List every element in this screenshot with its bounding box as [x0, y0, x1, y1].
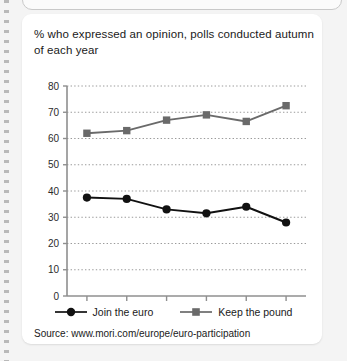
data-point-marker	[123, 195, 131, 203]
y-axis-tick-label: 50	[48, 159, 60, 170]
legend-item-join-the-euro: Join the euro	[54, 306, 154, 318]
clipped-box-above-figure	[22, 0, 342, 10]
data-point-marker	[203, 111, 210, 118]
y-axis-tick-label: 60	[48, 133, 60, 144]
y-axis-tick-label: 30	[48, 212, 60, 223]
line-chart-svg: 01020304050607080 1998199920002001200220…	[34, 72, 312, 304]
y-axis-tick-label: 80	[48, 81, 60, 92]
data-point-marker	[162, 205, 170, 213]
data-point-marker	[123, 127, 130, 134]
figure-card: % who expressed an opinion, polls conduc…	[22, 14, 322, 344]
series-line	[87, 198, 286, 223]
page-binding-edge	[4, 0, 9, 361]
data-point-marker	[83, 193, 91, 201]
data-point-marker	[282, 102, 289, 109]
data-point-marker	[202, 209, 210, 217]
data-point-marker	[163, 116, 170, 123]
y-axis-tick-label: 40	[48, 186, 60, 197]
data-point-marker	[282, 218, 290, 226]
chart-legend: Join the euro Keep the pound	[34, 306, 312, 318]
chart-title: % who expressed an opinion, polls conduc…	[34, 26, 318, 58]
y-axis-tick-label: 10	[48, 264, 60, 275]
y-axis-tick-label: 20	[48, 238, 60, 249]
square-marker-icon	[179, 306, 213, 318]
y-axis-tick-labels: 01020304050607080	[48, 81, 60, 302]
y-axis-tick-label: 70	[48, 107, 60, 118]
legend-label-join-the-euro: Join the euro	[93, 306, 154, 318]
gridlines-group	[67, 86, 306, 270]
y-axis-tick-label: 0	[53, 291, 59, 302]
legend-item-keep-the-pound: Keep the pound	[179, 306, 292, 318]
data-point-marker	[83, 130, 90, 137]
data-point-marker	[242, 203, 250, 211]
source-note: Source: www.mori.com/europe/euro-partici…	[34, 328, 318, 339]
legend-label-keep-the-pound: Keep the pound	[218, 306, 292, 318]
circle-marker-icon	[54, 306, 88, 318]
chart-plot-area: 01020304050607080 1998199920002001200220…	[34, 72, 312, 304]
data-point-marker	[243, 118, 250, 125]
series-line	[87, 106, 286, 134]
